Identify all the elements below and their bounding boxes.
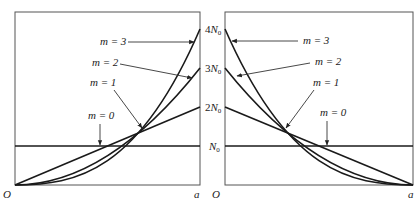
left-label-m0: m = 0 — [88, 109, 115, 121]
left-curve-m3 — [15, 29, 200, 185]
left-origin-label: O — [3, 188, 11, 200]
right-origin-label: O — [212, 188, 220, 200]
left-label-m1: m = 1 — [90, 76, 116, 88]
right-panel: m = 3 m = 2 m = 1 m = 0 O a — [212, 12, 414, 200]
level-label-2N0: 2N0 — [205, 101, 222, 115]
figure: m = 3 m = 2 m = 1 m = 0 O a 4N0 3N0 2N0 … — [0, 0, 420, 204]
right-label-m3: m = 3 — [303, 34, 330, 46]
right-arrow-m1 — [286, 90, 314, 128]
level-labels: 4N0 3N0 2N0 N0 — [205, 23, 222, 154]
left-label-m3: m = 3 — [100, 35, 127, 47]
left-arrow-m2 — [120, 64, 192, 78]
left-arrow-m1 — [114, 90, 142, 128]
left-label-m2: m = 2 — [92, 56, 119, 68]
right-label-m0: m = 0 — [320, 106, 347, 118]
level-label-N0: N0 — [208, 140, 220, 154]
right-label-m1: m = 1 — [313, 76, 339, 88]
left-panel: m = 3 m = 2 m = 1 m = 0 O a — [3, 12, 200, 200]
level-label-4N0: 4N0 — [205, 23, 222, 37]
right-end-label: a — [408, 188, 414, 200]
level-label-3N0: 3N0 — [205, 62, 222, 76]
right-label-m2: m = 2 — [315, 55, 342, 67]
left-end-label: a — [194, 188, 200, 200]
right-curve-m3 — [225, 29, 413, 185]
right-arrow-m2 — [237, 63, 310, 76]
